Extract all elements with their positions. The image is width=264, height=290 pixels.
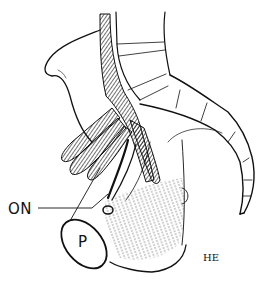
anatomical-illustration [0, 0, 264, 290]
stalk-right-edge [164, 12, 170, 75]
pituitary-label: P [78, 233, 87, 251]
optic-nerve-label: ON [8, 200, 32, 218]
fan-region [105, 178, 185, 260]
artist-signature: HE [203, 252, 219, 263]
on-leader-line [38, 194, 108, 208]
